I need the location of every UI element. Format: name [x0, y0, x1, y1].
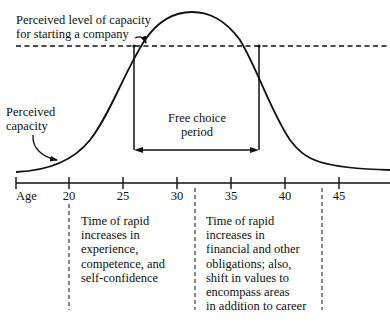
capacity-diagram: Perceived level of capacity for starting… — [0, 0, 390, 323]
free-choice-label-line-1: Free choice — [162, 111, 232, 125]
capacity-pointer-arrow — [33, 135, 57, 160]
note-line: shift in values to — [206, 271, 306, 285]
tick-label-35: 35 — [225, 189, 238, 203]
tick-label-20: 20 — [63, 189, 76, 203]
tick-label-40: 40 — [279, 189, 292, 203]
note-line: experience, — [81, 242, 165, 256]
note-line: increases in — [81, 228, 165, 242]
tick-label-45: 45 — [333, 189, 346, 203]
threshold-label-line-2: for starting a company — [16, 27, 151, 41]
note-obligations: Time of rapid increases in financial and… — [206, 214, 306, 313]
note-line: financial and other — [206, 242, 306, 256]
tick-label-25: 25 — [117, 189, 130, 203]
free-choice-label: Free choice period — [162, 111, 232, 139]
note-line: self-confidence — [81, 271, 165, 285]
threshold-label: Perceived level of capacity for starting… — [16, 13, 151, 41]
axis-label: Age — [16, 189, 37, 203]
curve-label-line-1: Perceived — [6, 105, 55, 119]
note-line: Time of rapid — [81, 214, 165, 228]
free-choice-label-line-2: period — [162, 125, 232, 139]
threshold-label-line-1: Perceived level of capacity — [16, 13, 151, 27]
note-line: competence, and — [81, 257, 165, 271]
note-line: increases in — [206, 228, 306, 242]
note-line: Time of rapid — [206, 214, 306, 228]
diagram-graphics — [0, 0, 390, 323]
tick-label-30: 30 — [171, 189, 184, 203]
note-line: obligations; also, — [206, 257, 306, 271]
note-experience: Time of rapid increases in experience, c… — [81, 214, 165, 285]
curve-label: Perceived capacity — [6, 105, 55, 133]
curve-label-line-2: capacity — [6, 119, 55, 133]
note-line: in addition to career — [206, 299, 306, 313]
note-line: encompass areas — [206, 285, 306, 299]
